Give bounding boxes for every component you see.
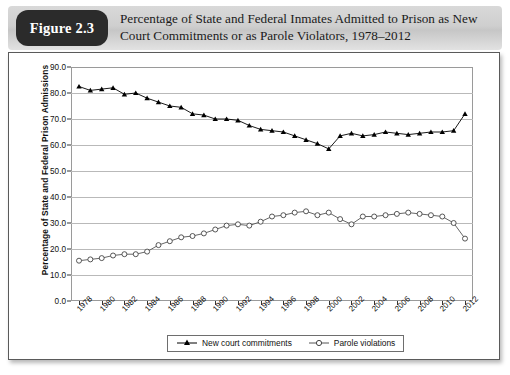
y-tick-label: 80.0 [50,89,66,98]
plot-area: 0.010.020.030.040.050.060.070.080.090.0 … [71,67,473,301]
data-point[interactable] [394,211,399,216]
data-point[interactable] [110,85,115,90]
data-point[interactable] [77,258,82,263]
data-point[interactable] [201,231,206,236]
data-point[interactable] [349,131,354,136]
data-point[interactable] [224,223,229,228]
data-series-layer [71,67,473,301]
legend-item-parole-violations[interactable]: Parole violations [308,338,395,348]
figure-container: Figure 2.3 Percentage of State and Feder… [0,0,510,375]
figure-header: Figure 2.3 Percentage of State and Feder… [8,6,502,50]
data-point[interactable] [440,214,445,219]
data-point[interactable] [463,236,468,241]
data-point[interactable] [451,221,456,226]
data-point[interactable] [133,252,138,257]
data-point[interactable] [144,96,149,101]
data-point[interactable] [428,213,433,218]
y-tick-label: 50.0 [50,167,66,176]
y-tick-label: 60.0 [50,141,66,150]
data-point[interactable] [417,211,422,216]
data-point[interactable] [326,210,331,215]
data-point[interactable] [167,239,172,244]
data-point[interactable] [383,129,388,134]
data-point[interactable] [145,249,150,254]
data-point[interactable] [235,222,240,227]
data-point[interactable] [338,217,343,222]
figure-number-badge: Figure 2.3 [16,10,108,46]
data-point[interactable] [383,213,388,218]
y-tick-label: 30.0 [50,219,66,228]
y-tick-label: 20.0 [50,245,66,254]
data-point[interactable] [372,214,377,219]
y-tick-label: 70.0 [50,115,66,124]
data-point[interactable] [99,256,104,261]
figure-number-label: Figure 2.3 [30,20,95,37]
data-point[interactable] [76,84,81,89]
figure-title: Percentage of State and Federal Inmates … [120,10,496,44]
data-point[interactable] [315,213,320,218]
figure-title-line-1: Percentage of State and Federal Inmates … [120,10,496,27]
data-point[interactable] [111,253,116,258]
y-tick-label: 40.0 [50,193,66,202]
y-tick-label: 10.0 [50,271,66,280]
data-point[interactable] [88,257,93,262]
data-point[interactable] [190,234,195,239]
series-line-new-court-commitments [79,87,465,149]
data-point[interactable] [190,111,195,116]
legend-label-parole-violations: Parole violations [334,338,395,348]
chart-legend: New court commitments Parole violations [167,335,404,352]
data-point[interactable] [462,111,467,116]
chart-frame: Percentage of State and Federal Prison A… [8,52,500,360]
figure-title-line-2: Court Commitments or as Parole Violators… [120,27,496,44]
data-point[interactable] [258,219,263,224]
data-point[interactable] [122,252,127,257]
data-point[interactable] [360,214,365,219]
open-circle-marker-icon [308,338,330,348]
filled-triangle-marker-icon [176,338,198,348]
data-point[interactable] [292,210,297,215]
data-point[interactable] [451,128,456,133]
legend-label-new-court-commitments: New court commitments [202,338,292,348]
data-point[interactable] [406,210,411,215]
data-point[interactable] [349,222,354,227]
legend-item-new-court-commitments[interactable]: New court commitments [176,338,292,348]
data-point[interactable] [179,235,184,240]
data-point[interactable] [281,213,286,218]
data-point[interactable] [304,209,309,214]
data-point[interactable] [213,227,218,232]
data-point[interactable] [270,214,275,219]
data-point[interactable] [247,123,252,128]
data-point[interactable] [133,90,138,95]
data-point[interactable] [247,223,252,228]
y-tick-label: 90.0 [50,63,66,72]
data-point[interactable] [156,243,161,248]
y-axis-title: Percentage of State and Federal Prison A… [40,55,50,285]
y-tick-label: 0.0 [55,297,66,306]
